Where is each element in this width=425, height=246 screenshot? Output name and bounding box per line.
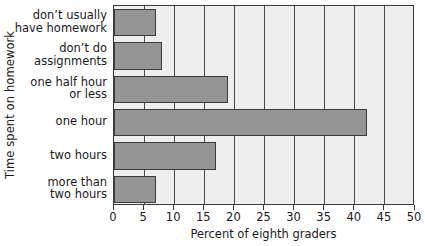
- gridline-30: [294, 6, 295, 204]
- category-label: don’t doassignments: [16, 38, 107, 71]
- category-label-line: two hours: [50, 149, 107, 162]
- bar: [114, 76, 228, 103]
- bar: [114, 176, 156, 203]
- category-label: more thantwo hours: [16, 172, 107, 205]
- category-label: two hours: [16, 138, 107, 171]
- gridline-10: [174, 6, 175, 204]
- category-label-line: don’t usually: [33, 9, 107, 22]
- bar: [114, 42, 162, 69]
- bar-chart-figure: Time spent on homework don’t usuallyhave…: [0, 0, 425, 246]
- category-label-line: one hour: [56, 115, 107, 128]
- category-label-line: have homework: [15, 22, 107, 35]
- gridline-15: [204, 6, 205, 204]
- bar: [114, 9, 156, 36]
- category-label: one half houror less: [16, 72, 107, 105]
- category-label: don’t usuallyhave homework: [16, 5, 107, 38]
- category-label: one hour: [16, 105, 107, 138]
- x-tick-label: 0: [109, 210, 116, 224]
- gridline-25: [264, 6, 265, 204]
- x-tick-label: 45: [377, 210, 392, 224]
- gridline-40: [354, 6, 355, 204]
- plot-area: [113, 5, 414, 205]
- x-tick-label: 50: [407, 210, 422, 224]
- x-tick-label: 30: [286, 210, 301, 224]
- category-label-line: assignments: [34, 55, 107, 68]
- bar: [114, 142, 216, 169]
- y-axis-title-text: Time spent on homework: [3, 31, 17, 179]
- x-tick-label: 10: [166, 210, 181, 224]
- category-label-line: or less: [69, 88, 107, 101]
- bar: [114, 109, 367, 136]
- category-label-column: don’t usuallyhave homeworkdon’t doassign…: [20, 5, 111, 205]
- x-tick-label: 20: [226, 210, 241, 224]
- x-tick-label: 15: [196, 210, 211, 224]
- gridline-45: [384, 6, 385, 204]
- x-tick-label: 40: [346, 210, 361, 224]
- x-tick-label: 5: [139, 210, 146, 224]
- gridline-20: [234, 6, 235, 204]
- x-axis-title: Percent of eighth graders: [113, 227, 414, 241]
- category-label-line: two hours: [50, 188, 107, 201]
- x-tick-label: 25: [256, 210, 271, 224]
- gridline-35: [324, 6, 325, 204]
- x-tick-label: 35: [316, 210, 331, 224]
